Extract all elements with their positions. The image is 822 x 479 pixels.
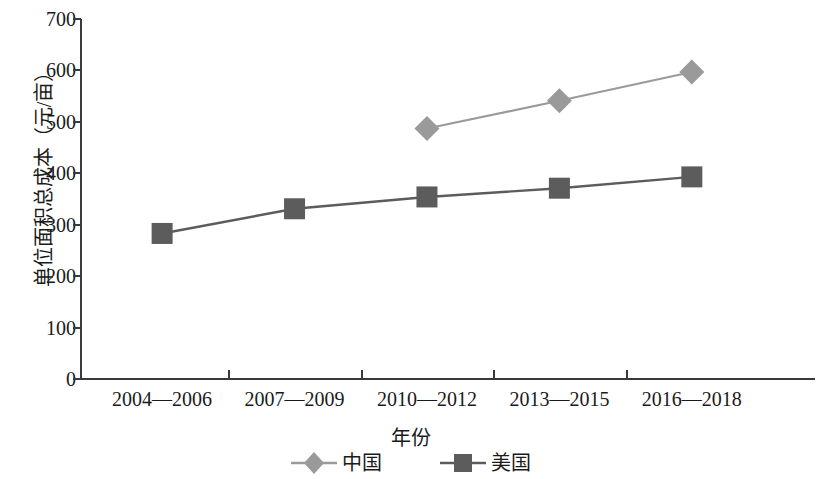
line-chart: 单位面积总成本（元/亩） 0100200300400500600700 2004… (0, 0, 822, 479)
data-point-marker (414, 116, 439, 141)
y-tick-label: 600 (30, 60, 76, 80)
legend-diamond-marker-icon (291, 452, 337, 474)
data-point-marker (152, 223, 173, 244)
y-tick-label: 300 (30, 215, 76, 235)
y-axis-tick-labels: 0100200300400500600700 (24, 0, 76, 479)
x-axis-title: 年份 (0, 422, 822, 451)
y-tick-label: 500 (30, 112, 76, 132)
data-point-marker (284, 198, 305, 219)
legend-square-marker-icon (440, 452, 486, 474)
y-tick-label: 200 (30, 266, 76, 286)
data-point-marker (549, 178, 570, 199)
legend-item-美国[interactable]: 美国 (440, 452, 531, 474)
x-tick-label: 2016—2018 (602, 388, 782, 411)
data-point-marker (416, 186, 437, 207)
plot-area (80, 19, 815, 379)
legend-label: 美国 (491, 453, 531, 473)
series-layer (80, 19, 815, 379)
x-axis-tick-labels: 2004—20062007—20092010—20122013—20152016… (80, 388, 815, 418)
chart-legend: 中国美国 (0, 452, 822, 474)
y-tick-label: 100 (30, 318, 76, 338)
y-tick-label: 700 (30, 9, 76, 29)
legend-item-中国[interactable]: 中国 (291, 452, 382, 474)
y-tick-label: 400 (30, 163, 76, 183)
y-tick-label: 0 (30, 369, 76, 389)
legend-label: 中国 (342, 453, 382, 473)
data-point-marker (547, 88, 572, 113)
data-point-marker (679, 59, 704, 84)
data-point-marker (681, 166, 702, 187)
